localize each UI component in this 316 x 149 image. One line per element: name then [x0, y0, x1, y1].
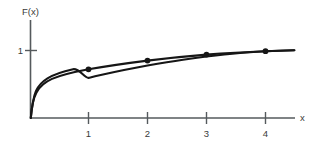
- data-point-marker: [145, 58, 151, 64]
- x-tick-label-3: 3: [204, 128, 209, 139]
- plot-svg: F(x) 1 1 2 3 4 x: [0, 0, 316, 149]
- function-curve-smooth: [31, 50, 295, 118]
- x-axis-title: x: [300, 112, 305, 123]
- y-axis-title: F(x): [22, 6, 39, 17]
- function-curve: [31, 50, 294, 118]
- x-tick-label-1: 1: [86, 128, 91, 139]
- x-tick-label-2: 2: [145, 128, 150, 139]
- data-point-marker: [204, 52, 210, 58]
- y-tick-label-1: 1: [18, 45, 23, 56]
- data-point-marker: [86, 66, 92, 72]
- chart-figure: F(x) 1 1 2 3 4 x: [0, 0, 316, 149]
- x-tick-label-4: 4: [263, 128, 268, 139]
- data-point-marker: [263, 48, 269, 54]
